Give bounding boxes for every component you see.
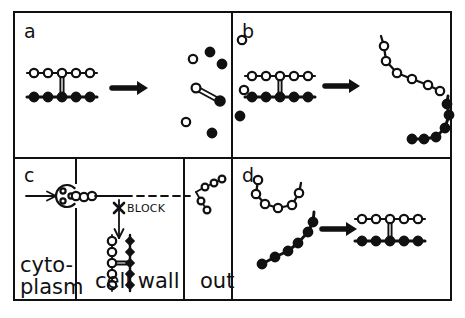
panel-a-duplex-top-node — [86, 69, 94, 77]
panel-a-free-subunit — [235, 111, 244, 120]
released-product-node — [202, 184, 209, 191]
panel-a-free-subunit — [217, 59, 226, 68]
panel-d-duplex-top-node — [414, 215, 422, 223]
panel-b-open-strand-node — [393, 69, 401, 77]
panel-a-dimer-filled-node — [215, 96, 225, 106]
panel-d-arrow-head — [346, 222, 357, 236]
panel-label-c: c — [24, 164, 34, 186]
panel-d-open-strand-node — [274, 204, 282, 212]
panel-b-duplex-bottom-node — [289, 92, 298, 101]
panel-b-duplex-top-node — [290, 72, 298, 80]
panel-d-filled-strand-node — [270, 252, 279, 261]
panel-a-duplex-bottom-node — [29, 92, 38, 101]
panel-b-open-strand-node — [382, 57, 390, 65]
panel-c-wall-duplex-right-node — [126, 248, 135, 257]
panel-a-duplex-bottom-node — [71, 92, 80, 101]
panel-b-open-strand-node — [408, 75, 416, 83]
compartment-label-cell-wall: cell wall — [95, 269, 180, 293]
panel-b-filled-strand-node — [407, 134, 416, 143]
panel-d-duplex-top-node — [400, 215, 408, 223]
panel-a-duplex-top-node — [30, 69, 38, 77]
diagram-canvas: abcBLOCKcyto-plasmcell walloutd — [0, 0, 465, 318]
panel-b-duplex-top-node — [262, 72, 270, 80]
panel-b-duplex-bottom-node — [303, 92, 312, 101]
panel-d-open-strand-node — [261, 200, 269, 208]
panel-d-filled-strand-node — [283, 246, 292, 255]
panel-a-arrow-head — [137, 81, 148, 95]
panel-a-duplex-top-node — [58, 69, 66, 77]
panel-d-filled-strand-node — [303, 227, 312, 236]
panel-a-free-subunit — [240, 86, 248, 94]
panel-b-duplex-top-node — [304, 72, 312, 80]
panel-b-filled-strand-node — [419, 134, 428, 143]
panel-d-duplex-top-node — [386, 215, 394, 223]
panel-label-b: b — [242, 20, 254, 42]
panel-d-open-strand-node — [254, 176, 262, 184]
panel-d-filled-strand-node — [308, 217, 317, 226]
channel-inner-subunit — [60, 188, 65, 193]
panel-c-wall-duplex-right-node — [126, 237, 135, 246]
channel-inner-subunit — [60, 198, 65, 203]
panel-d-open-strand-node — [288, 201, 296, 209]
panel-d-duplex-bottom-node — [385, 236, 394, 245]
panel-a-duplex-top-node — [44, 69, 52, 77]
panel-a-duplex-bottom-node — [43, 92, 52, 101]
panel-d-filled-strand-node — [257, 259, 266, 268]
panel-c-wall-duplex-left-node — [108, 237, 116, 245]
panel-d-open-strand-node — [295, 189, 303, 197]
panel-b-open-strand-node — [436, 87, 444, 95]
panel-d-duplex-bottom-node — [357, 236, 366, 245]
panel-c-wall-duplex-left-node — [108, 248, 116, 256]
panel-d-duplex-top-node — [358, 215, 366, 223]
panel-d-filled-strand-node — [293, 238, 302, 247]
panel-label-d: d — [242, 164, 254, 186]
compartment-label-out: out — [200, 269, 234, 293]
panel-a-free-subunit — [189, 55, 197, 63]
panel-a-free-subunit — [205, 47, 214, 56]
panel-label-a: a — [24, 20, 36, 42]
compartment-label-cytoplasm: cyto- — [20, 253, 73, 277]
panel-d-duplex-bottom-node — [371, 236, 380, 245]
panel-d-duplex-bottom-node — [399, 236, 408, 245]
panel-a-free-subunit — [207, 128, 216, 137]
compartment-label-cytoplasm: plasm — [20, 275, 83, 299]
panel-d-duplex-bottom-node — [413, 236, 422, 245]
panel-a-duplex-top-node — [72, 69, 80, 77]
panel-b-duplex-top-node — [276, 72, 284, 80]
panel-b-duplex-bottom-node — [247, 92, 256, 101]
panel-b-open-strand-node — [424, 81, 432, 89]
released-product-node — [198, 198, 205, 205]
released-product-node — [211, 180, 218, 187]
panel-b-open-strand-node — [380, 42, 388, 50]
panel-a-duplex-bottom-node — [57, 92, 66, 101]
panel-b-duplex-bottom-node — [275, 92, 284, 101]
panel-b-filled-strand-node — [444, 110, 453, 119]
panel-c-wall-duplex-right-node — [126, 259, 135, 268]
figure-container: abcBLOCKcyto-plasmcell walloutd — [0, 0, 465, 318]
released-product-node — [219, 176, 226, 183]
panel-a-dimer-open-node — [192, 84, 201, 93]
panel-b-duplex-top-node — [248, 72, 256, 80]
block-label: BLOCK — [127, 202, 166, 215]
panel-a-free-subunit — [182, 118, 190, 126]
panel-d-duplex-top-node — [372, 215, 380, 223]
panel-d-open-strand-node — [252, 190, 260, 198]
panel-b-duplex-bottom-node — [261, 92, 270, 101]
panel-b-filled-strand-node — [442, 99, 451, 108]
panel-b-filled-strand-node — [440, 123, 449, 132]
panel-a-duplex-bottom-node — [85, 92, 94, 101]
panel-b-filled-strand-node — [431, 132, 440, 141]
panel-c-wall-duplex-left-node — [108, 259, 116, 267]
released-product-node — [204, 207, 211, 214]
panel-b-arrow-head — [349, 79, 360, 93]
